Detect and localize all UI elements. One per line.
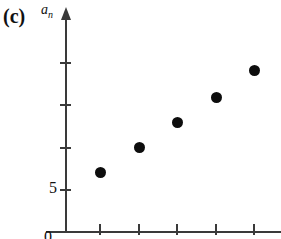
scatter-plot-figure: (c) an 0 5 bbox=[0, 0, 281, 239]
data-point bbox=[249, 65, 260, 76]
data-point bbox=[134, 142, 145, 153]
origin-label: 0 bbox=[44, 229, 52, 239]
data-point bbox=[211, 92, 222, 103]
data-point bbox=[95, 167, 106, 178]
panel-label: (c) bbox=[3, 6, 25, 26]
y-axis-tick bbox=[60, 62, 71, 64]
y-axis-tick bbox=[60, 147, 71, 149]
x-axis-tick bbox=[138, 224, 140, 235]
y-axis-label-subscript: n bbox=[48, 9, 53, 20]
y-axis-tick-label: 5 bbox=[35, 180, 57, 196]
y-axis-tick bbox=[60, 189, 71, 191]
x-axis-tick bbox=[253, 224, 255, 235]
y-axis-line bbox=[65, 18, 67, 233]
x-axis-tick bbox=[99, 224, 101, 235]
x-axis-tick bbox=[176, 224, 178, 235]
x-axis-line bbox=[46, 231, 281, 233]
data-point bbox=[172, 117, 183, 128]
y-axis-label: an bbox=[41, 3, 53, 20]
y-axis-label-base: a bbox=[41, 2, 48, 17]
y-axis-tick bbox=[60, 104, 71, 106]
x-axis-tick bbox=[215, 224, 217, 235]
y-axis-arrow-icon bbox=[61, 7, 71, 20]
